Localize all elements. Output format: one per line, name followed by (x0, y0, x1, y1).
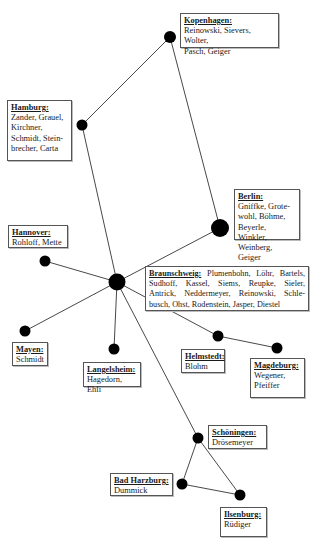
label-ilsenburg: Ilsenburg: Rüdiger (220, 507, 267, 537)
label-title: Braunschweig: (149, 269, 201, 278)
label-braunschweig: Braunschweig: Plumenbohn, Löhr, Bartels,… (145, 266, 309, 311)
node-ilsenburg (235, 490, 246, 501)
edge-kopenhagen-hamburg (82, 37, 170, 125)
label-members: Kirchner, (11, 123, 68, 133)
label-title: Helmstedt: (185, 352, 221, 362)
label-mayen: Mayen: Schmidt (12, 342, 48, 366)
label-members: Dummick (114, 486, 169, 496)
edge-mayen-braunschweig (25, 282, 117, 331)
node-langelsheim (109, 344, 120, 355)
label-members: wohl, Böhme, (238, 212, 296, 222)
label-members: Gniffke, Grote- (238, 202, 296, 212)
label-members: Drösemeyer (212, 438, 263, 448)
edge-helmstedt-magdeburg (218, 336, 277, 348)
node-hannover (40, 256, 51, 267)
label-title: Berlin: (238, 192, 296, 202)
edge-hannover-braunschweig (45, 261, 117, 282)
label-hannover: Hannover: Rohloff, Mette (8, 225, 68, 248)
label-members: Sudhoff, Kassel, Siems, Reupke, Sieler, (149, 279, 305, 289)
label-berlin: Berlin: Gniffke, Grote- wohl, Böhme, Bey… (234, 189, 300, 240)
label-helmstedt: Helmstedt: Blohm (181, 349, 225, 373)
label-members: Rohloff, Mette (12, 238, 64, 248)
label-title: Magdeburg: (254, 361, 301, 371)
label-title: Mayen: (16, 345, 44, 355)
label-first-line: Braunschweig: Plumenbohn, Löhr, Bartels, (149, 269, 305, 279)
label-members: Zander, Grauel, (11, 113, 68, 123)
edge-hamburg-braunschweig (82, 125, 117, 282)
node-helmstedt (213, 331, 224, 342)
label-members: Plumenbohn, Löhr, Bartels, (207, 269, 305, 278)
label-members: Rüdiger (224, 520, 263, 530)
label-members: Schmidt (16, 355, 44, 365)
label-members: Hagedorn, Ehli (87, 375, 137, 395)
label-members: Blohm (185, 362, 221, 372)
edge-langelsheim-braunschweig (114, 282, 117, 349)
label-kopenhagen: Kopenhagen: Reinowski, Sievers, Wolter, … (180, 13, 279, 48)
label-title: Ilsenburg: (224, 510, 263, 520)
node-schoeningen (193, 433, 204, 444)
label-langelsheim: Langelsheim: Hagedorn, Ehli (83, 362, 141, 387)
label-members: busch, Ohst, Rodenstein, Jasper, Diestel (149, 300, 305, 310)
label-title: Bad Harzburg: (114, 476, 169, 486)
label-members: Reinowski, Sievers, Wolter, (184, 26, 275, 46)
label-title: Hannover: (12, 228, 64, 238)
label-members: Antrick, Neddermeyer, Reinowski, Schle- (149, 289, 305, 299)
edge-badharzburg-ilsenburg (182, 484, 240, 495)
label-bad-harzburg: Bad Harzburg: Dummick (110, 473, 173, 496)
label-title: Hamburg: (11, 103, 68, 113)
label-schoeningen: Schöningen: Drösemeyer (208, 425, 267, 449)
label-title: Schöningen: (212, 428, 263, 438)
label-hamburg: Hamburg: Zander, Grauel, Kirchner, Schmi… (7, 100, 72, 161)
label-members: Pfeiffer (254, 381, 301, 391)
label-members: Weinberg, Geiger (238, 243, 296, 263)
node-mayen (20, 326, 31, 337)
node-bad-harzburg (177, 479, 188, 490)
label-members: Pasch, Geiger (184, 47, 275, 57)
label-members: Beyerle, Winkler, (238, 223, 296, 243)
label-members: Schmidt, Stein- (11, 134, 68, 144)
node-berlin (211, 219, 229, 237)
label-members: brecher, Carta (11, 144, 68, 154)
edge-kopenhagen-berlin (170, 37, 220, 228)
node-kopenhagen (164, 31, 176, 43)
edge-schoeningen-badharzburg (182, 438, 198, 484)
node-hamburg (77, 120, 88, 131)
node-magdeburg (272, 343, 283, 354)
label-title: Langelsheim: (87, 365, 137, 375)
label-members: Wegener, (254, 371, 301, 381)
label-title: Kopenhagen: (184, 16, 275, 26)
label-magdeburg: Magdeburg: Wegener, Pfeiffer (250, 358, 305, 398)
node-braunschweig (109, 274, 126, 291)
